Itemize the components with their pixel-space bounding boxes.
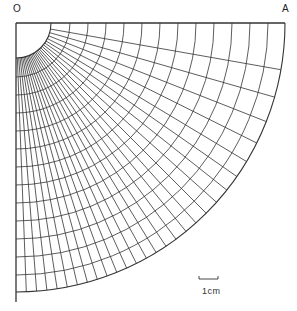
- radial-line: [45, 43, 237, 177]
- radial-line: [27, 56, 98, 279]
- radial-line: [50, 29, 280, 70]
- radial-line: [50, 33, 275, 97]
- curvilinear-grid-diagram: [0, 0, 297, 311]
- radial-line: [34, 53, 156, 253]
- radial-line: [25, 57, 87, 283]
- scale-bar: [199, 276, 218, 279]
- radial-line: [29, 55, 117, 272]
- origin-label-o: O: [13, 4, 21, 14]
- radial-line: [30, 55, 126, 268]
- radial-line: [47, 39, 256, 143]
- endpoint-label-a: A: [282, 4, 289, 14]
- radial-line: [41, 48, 206, 213]
- scale-bar-line: [199, 276, 218, 279]
- scale-label: 1cm: [202, 286, 221, 296]
- radial-line: [43, 45, 226, 190]
- radial-line: [21, 58, 57, 289]
- radial-line: [23, 57, 68, 287]
- quadrant-frame: [16, 23, 285, 302]
- radial-lines: [17, 29, 281, 292]
- radial-line: [42, 46, 216, 202]
- radial-line: [37, 51, 176, 239]
